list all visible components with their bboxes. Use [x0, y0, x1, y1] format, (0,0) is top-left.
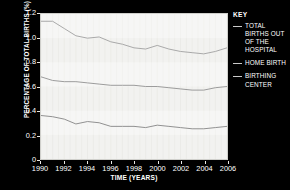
y-tick-label: 0.6: [0, 83, 36, 91]
plot-lines: [41, 14, 227, 159]
x-axis-title: TIME (YEARS): [40, 174, 228, 181]
legend: KEY TOTAL BIRTHS OUT OF THE HOSPITAL HOM…: [233, 11, 290, 94]
legend-title: KEY: [233, 11, 290, 18]
legend-item: BIRTHING CENTER: [233, 72, 290, 88]
x-axis-ticks: 199019921994199619982000200220042006: [0, 161, 290, 175]
chart-figure: PERCENTAGE OF TOTAL BIRTHS (%) 00.20.40.…: [0, 0, 290, 190]
legend-line-icon: [233, 63, 242, 64]
legend-item-label: TOTAL BIRTHS OUT OF THE HOSPITAL: [245, 22, 290, 54]
y-tick-label: 1.2: [0, 9, 36, 17]
legend-line-icon: [233, 26, 242, 27]
legend-item-label: HOME BIRTH: [245, 59, 286, 67]
legend-item: HOME BIRTH: [233, 59, 290, 67]
y-tick-label: 0.8: [0, 58, 36, 66]
plot-area: [40, 13, 228, 160]
legend-item: TOTAL BIRTHS OUT OF THE HOSPITAL: [233, 22, 290, 54]
y-tick-label: 1.0: [0, 34, 36, 42]
legend-item-label: BIRTHING CENTER: [245, 72, 290, 88]
x-tick-label: 2006: [213, 164, 243, 173]
legend-line-icon: [233, 76, 242, 77]
y-tick-label: 0.4: [0, 107, 36, 115]
y-tick-label: 0.2: [0, 132, 36, 140]
